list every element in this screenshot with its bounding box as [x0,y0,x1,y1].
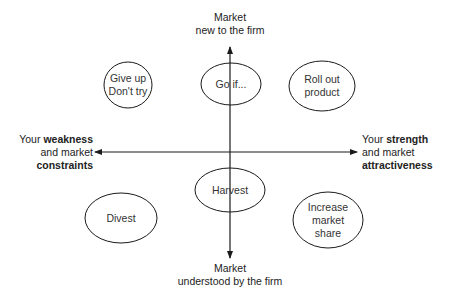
axis-bottom-line1: Market [165,262,295,275]
node-go-if-line1: Go if... [216,78,247,91]
node-increase-share-line2: market [312,214,344,227]
axis-right-bold1: strength [386,133,428,145]
node-roll-out: Roll out product [289,61,355,111]
axis-right-prefix: Your [362,133,386,145]
axis-left-line3: constraints [0,159,93,172]
axis-label-right: Your strength and market attractiveness [362,133,449,172]
node-divest-line1: Divest [106,212,135,225]
axis-bottom-line2: understood by the firm [165,275,295,288]
node-roll-out-line1: Roll out [304,73,340,86]
axis-left-line1: Your weakness [0,133,93,146]
node-go-if: Go if... [201,63,261,105]
node-increase-share-line1: Increase [308,201,348,214]
axis-label-left: Your weakness and market constraints [0,133,93,172]
axis-right-line2: and market [362,146,449,159]
node-harvest: Harvest [195,168,265,212]
node-divest: Divest [85,193,157,243]
node-harvest-line1: Harvest [212,184,248,197]
axis-left-bold1: weakness [43,133,93,145]
node-give-up: Give up Don't try [104,62,152,108]
node-increase-share: Increase market share [293,192,363,248]
axis-left-bold2: constraints [36,159,93,171]
axis-top-line2: new to the firm [170,24,290,37]
node-roll-out-line2: product [304,86,339,99]
node-increase-share-line3: share [315,227,341,240]
node-give-up-line2: Don't try [109,85,148,98]
axis-label-top: Market new to the firm [170,11,290,37]
axis-right-line1: Your strength [362,133,449,146]
axis-label-bottom: Market understood by the firm [165,262,295,288]
axis-left-line2: and market [0,146,93,159]
axis-left-prefix: Your [19,133,43,145]
axis-top-line1: Market [170,11,290,24]
node-give-up-line1: Give up [110,72,146,85]
axis-right-line3: attractiveness [362,159,449,172]
axis-right-bold2: attractiveness [362,159,433,171]
